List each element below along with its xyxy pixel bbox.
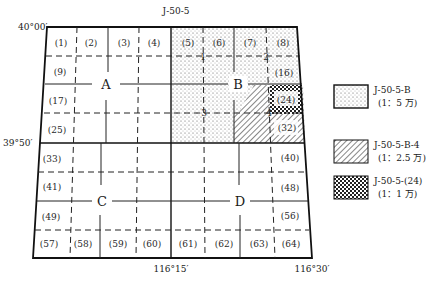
cell-25: (25) — [48, 125, 66, 135]
cell-8: (8) — [277, 38, 290, 48]
cell-64: (64) — [282, 239, 300, 249]
coord-lon-right: 116°30′ — [294, 264, 329, 274]
legend-code-2: J-50-5-B-4 — [373, 140, 420, 150]
cell-49: (49) — [42, 212, 60, 222]
cell-57: (57) — [40, 239, 58, 249]
legend-scale-2: (1：2.5 万) — [378, 153, 426, 163]
cell-61: (61) — [179, 239, 197, 249]
cell-59: (59) — [109, 239, 127, 249]
sub-label-3: 3 — [201, 108, 207, 118]
cell-24: (24) — [277, 95, 295, 105]
quadrant-b-label: B — [233, 77, 243, 92]
coord-lon-mid: 116°15′ — [153, 264, 188, 274]
quadrant-a-label: A — [100, 77, 111, 92]
legend-scale-1: (1：5 万) — [378, 98, 417, 108]
quadrant-c-label: C — [97, 194, 107, 209]
cell-63: (63) — [250, 239, 268, 249]
cell-16: (16) — [275, 68, 293, 78]
cell-48: (48) — [281, 183, 299, 193]
sub-label-4: 4 — [266, 108, 272, 118]
cell-2: (2) — [85, 38, 98, 48]
cell-40: (40) — [281, 153, 299, 163]
cell-41: (41) — [43, 182, 61, 192]
cell-3: (3) — [118, 38, 131, 48]
coord-lat-mid: 39°50′ — [3, 138, 32, 148]
cell-5: (5) — [182, 38, 195, 48]
sheet-title: J-50-5 — [162, 6, 190, 16]
map-sheet-diagram: J-50-5 — [0, 0, 435, 281]
legend-swatch-dots — [334, 85, 368, 108]
cell-56: (56) — [281, 211, 299, 221]
cell-7: (7) — [244, 38, 257, 48]
cell-17: (17) — [49, 96, 67, 106]
legend-swatch-hatch — [334, 140, 368, 163]
cell-58: (58) — [74, 239, 92, 249]
coord-lat-top: 40°00′ — [18, 22, 47, 32]
legend-scale-3: (1：1 万) — [378, 189, 417, 199]
cell-4: (4) — [148, 38, 161, 48]
cell-1: (1) — [55, 38, 68, 48]
sub-label-2: 2 — [263, 52, 269, 62]
legend-swatch-cross — [334, 176, 368, 199]
cell-33: (33) — [43, 154, 61, 164]
cell-6: (6) — [213, 38, 226, 48]
cell-32: (32) — [278, 123, 296, 133]
cell-60: (60) — [143, 239, 161, 249]
sub-label-1: 1 — [200, 52, 206, 62]
legend-code-1: J-50-5-B — [373, 85, 411, 95]
legend-code-3: J-50-5-(24) — [373, 176, 422, 186]
cell-62: (62) — [215, 239, 233, 249]
legend: J-50-5-B (1：5 万) J-50-5-B-4 (1：2.5 万) J-… — [334, 85, 426, 199]
cell-9: (9) — [54, 67, 67, 77]
quadrant-d-label: D — [235, 194, 245, 209]
